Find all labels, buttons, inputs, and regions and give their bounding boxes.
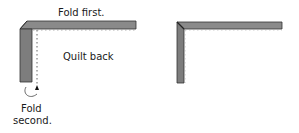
binding-diagram [0, 0, 299, 133]
label-fold: Fold [21, 103, 42, 114]
label-quilt-back: Quilt back [63, 51, 114, 62]
fold-arrow-icon [25, 87, 37, 96]
label-second: second. [13, 115, 52, 126]
right-binding-corner [177, 22, 282, 83]
label-fold-first: Fold first. [58, 7, 105, 18]
